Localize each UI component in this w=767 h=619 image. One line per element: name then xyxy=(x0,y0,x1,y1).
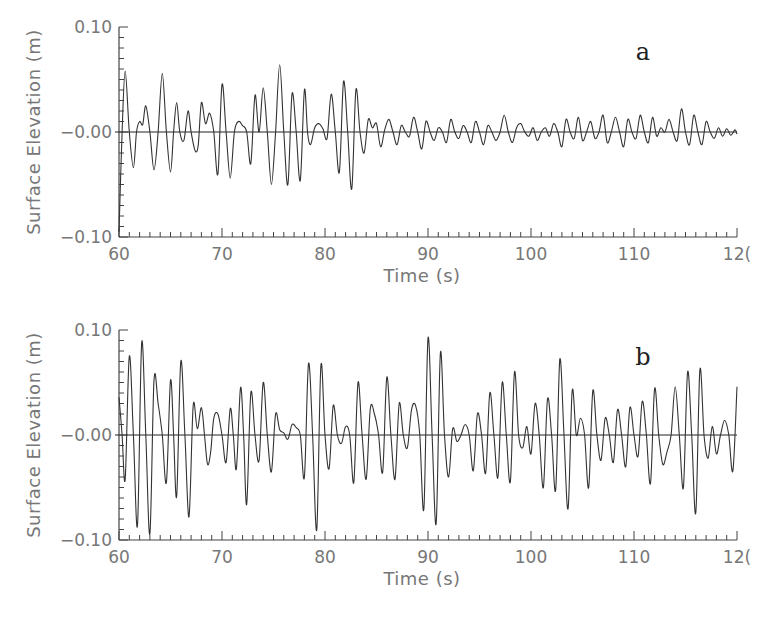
panel-a-xtick-100: 100 xyxy=(515,244,547,264)
panel-b-letter: b xyxy=(635,343,650,371)
figure: 0.10 −0.00 −0.10 60 70 80 90 100 110 12(… xyxy=(0,0,767,619)
panel-b-xtick-90: 90 xyxy=(417,547,439,567)
panel-a: 0.10 −0.00 −0.10 60 70 80 90 100 110 12(… xyxy=(23,17,751,286)
panel-a-xtick-90: 90 xyxy=(417,244,439,264)
panel-a-letter: a xyxy=(636,38,650,66)
panel-b-xtick-120: 12( xyxy=(723,547,751,567)
panel-a-xtick-80: 80 xyxy=(314,244,336,264)
panel-b-ytick-zero: −0.00 xyxy=(60,425,112,445)
panel-b-ytick-bottom: −0.10 xyxy=(60,530,112,550)
panel-b-xtick-80: 80 xyxy=(314,547,336,567)
panel-b-ytick-top: 0.10 xyxy=(74,320,112,340)
panel-a-xtick-120: 12( xyxy=(723,244,751,264)
panel-a-ytick-zero: −0.00 xyxy=(60,122,112,142)
panel-b-xtick-100: 100 xyxy=(515,547,547,567)
panel-a-ylabel: Surface Elevation (m) xyxy=(23,29,44,235)
panel-a-ytick-bottom: −0.10 xyxy=(60,227,112,247)
panel-b-ylabel: Surface Elevation (m) xyxy=(23,332,44,538)
panel-b-xtick-70: 70 xyxy=(211,547,233,567)
panel-b: 0.10 −0.00 −0.10 60 70 80 90 100 110 12(… xyxy=(23,320,751,589)
panel-a-xlabel: Time (s) xyxy=(382,265,460,286)
panel-a-xtick-70: 70 xyxy=(211,244,233,264)
panel-b-xtick-110: 110 xyxy=(618,547,650,567)
panel-a-xtick-110: 110 xyxy=(618,244,650,264)
panel-b-xtick-60: 60 xyxy=(108,547,130,567)
data-series-line xyxy=(119,65,737,232)
panel-b-xlabel: Time (s) xyxy=(382,568,460,589)
panel-a-xtick-60: 60 xyxy=(108,244,130,264)
panel-a-ytick-top: 0.10 xyxy=(74,17,112,37)
